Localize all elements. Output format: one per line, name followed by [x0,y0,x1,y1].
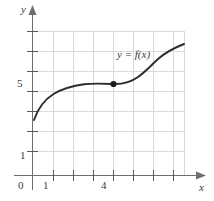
function-curve [34,44,184,120]
y-axis-label: y [21,4,26,15]
x-axis-label: x [199,182,204,193]
x-tick-label-0: 0 [18,180,24,191]
y-tick-label-1: 1 [20,150,26,161]
function-graph-figure: y x 5 1 0 1 4 y = f(x) [0,0,214,201]
plot-canvas [0,0,214,201]
grid-horizontal [33,32,184,152]
curve-equation-label: y = f(x) [117,49,150,60]
x-tick-label-4: 4 [101,180,107,191]
x-tick-label-1: 1 [43,180,49,191]
y-tick-label-5: 5 [17,78,23,89]
y-axis [29,5,37,190]
point-marker-4-5 [110,81,116,87]
